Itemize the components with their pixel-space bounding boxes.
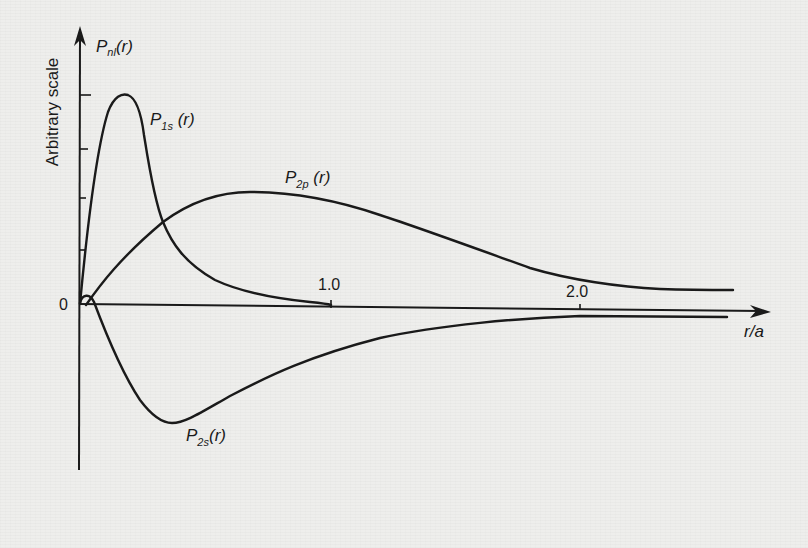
y-axis-line (79, 34, 80, 470)
curve-p2p (86, 192, 733, 305)
label-p2s: P2s(r) (186, 426, 226, 448)
origin-label: 0 (59, 296, 68, 313)
x-tick-label-2: 2.0 (566, 283, 588, 300)
x-axis (79, 300, 771, 318)
label-p1s: P1s (r) (150, 110, 195, 132)
radial-wavefunction-chart: Arbitrary scale Pnl(r) 0 1.0 2.0 r/a P1s… (0, 0, 808, 548)
x-axis-line (79, 304, 762, 311)
y-axis-title: Pnl(r) (96, 37, 133, 58)
x-tick-label-1: 1.0 (318, 276, 340, 293)
x-axis-label: r/a (744, 322, 764, 341)
curve-p2s (80, 296, 727, 423)
label-p2p: P2p (r) (285, 168, 330, 190)
y-axis-label: Arbitrary scale (43, 58, 62, 167)
y-axis (74, 26, 91, 470)
